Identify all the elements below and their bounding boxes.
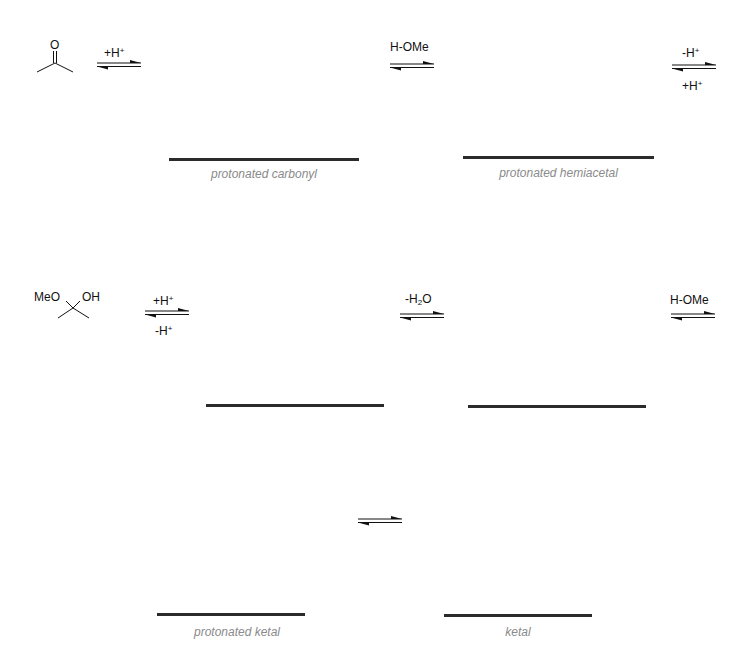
reagent-step5-top: -H2O <box>405 292 431 310</box>
placeholder-bar-oxonium <box>206 404 384 407</box>
placeholder-bar-protonated-hemiacetal <box>463 156 654 159</box>
equilibrium-arrow-step5 <box>399 310 445 322</box>
equilibrium-arrow-step1 <box>96 59 142 71</box>
methoxy-group: MeO <box>34 290 60 304</box>
placeholder-bar-oxocarbenium <box>468 405 646 408</box>
label-ketal: ketal <box>444 625 592 639</box>
equilibrium-arrow-step3 <box>671 61 717 73</box>
label-protonated-carbonyl: protonated carbonyl <box>169 167 359 181</box>
reagent-step6-top: H-OMe <box>670 293 709 307</box>
reagent-step3-top: -H+ <box>682 44 699 60</box>
label-protonated-ketal: protonated ketal <box>157 625 317 639</box>
oxygen-atom: O <box>50 38 59 52</box>
hemiacetal-structure: MeO OH <box>30 288 110 324</box>
label-protonated-hemiacetal: protonated hemiacetal <box>463 166 654 180</box>
placeholder-bar-protonated-ketal <box>157 613 305 616</box>
equilibrium-arrow-step7 <box>357 515 403 527</box>
acetone-structure: O <box>30 36 82 78</box>
equilibrium-arrow-step6 <box>670 310 716 322</box>
equilibrium-arrow-step4 <box>144 307 190 319</box>
hydroxy-group: OH <box>82 290 100 304</box>
reagent-step1-top: +H+ <box>104 44 124 60</box>
reagent-step2-top: H-OMe <box>390 40 429 54</box>
reagent-step3-bottom: +H+ <box>682 77 702 93</box>
placeholder-bar-protonated-carbonyl <box>169 158 359 161</box>
reagent-step4-top: +H+ <box>153 292 173 308</box>
reagent-step4-bottom: -H+ <box>155 322 172 338</box>
equilibrium-arrow-step2 <box>389 60 435 72</box>
placeholder-bar-ketal <box>444 614 592 617</box>
